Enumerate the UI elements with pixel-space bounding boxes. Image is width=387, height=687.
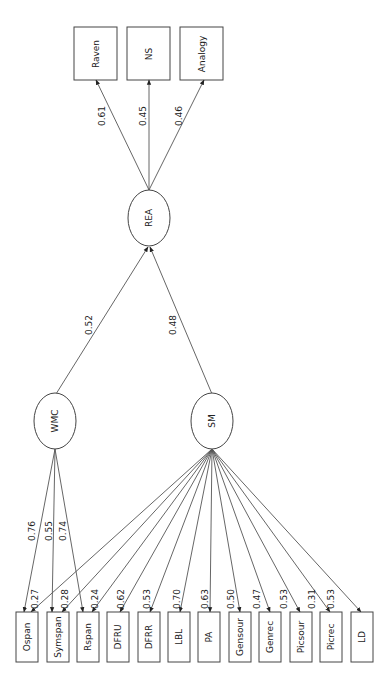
indicator-symspan: Symspan xyxy=(47,612,69,662)
edge-rea-analogy xyxy=(149,80,204,190)
edge-wmc-rea xyxy=(56,247,148,394)
top-indicator-raven: Raven xyxy=(74,27,117,80)
ld-label: LD xyxy=(357,631,367,643)
latent-wmc: WMC xyxy=(34,393,76,449)
weight-wmc-rspan: 0.74 xyxy=(58,521,68,541)
latent-rea: REA xyxy=(128,190,170,246)
weight-analogy: 0.46 xyxy=(174,106,184,126)
weight-sm-genrec: 0.47 xyxy=(252,589,262,609)
indicator-gensour: Gensour xyxy=(229,612,251,662)
weight-sm-lbl: 0.70 xyxy=(172,589,182,609)
edge-sm-genrec xyxy=(212,449,270,612)
indicator-rspan: Rspan xyxy=(77,612,99,662)
latent-sm: SM xyxy=(191,393,233,449)
indicator-genrec: Genrec xyxy=(259,612,281,662)
indicator-ld: LD xyxy=(351,612,373,662)
weight-wmc-symspan: 0.55 xyxy=(44,521,54,541)
indicator-picrec: Picrec xyxy=(320,612,342,662)
edge-sm-pa xyxy=(210,449,212,612)
raven-label: Raven xyxy=(91,40,101,68)
edge-rea-raven xyxy=(96,80,149,190)
edge-sm-dfrr xyxy=(150,449,212,612)
gensour-label: Gensour xyxy=(235,618,245,656)
sm-label: SM xyxy=(207,414,217,427)
dfrr-label: DFRR xyxy=(144,625,154,650)
top-indicator-ns: NS xyxy=(127,27,170,80)
weight-sm-dfrr: 0.53 xyxy=(142,589,152,609)
edge-sm-rea xyxy=(150,247,212,394)
edge-sm-rspan xyxy=(92,449,212,612)
rspan-label: Rspan xyxy=(83,623,93,651)
indicator-dfrr: DFRR xyxy=(138,612,160,662)
weight-sm-picrec: 0.31 xyxy=(307,589,317,609)
pa-label: PA xyxy=(204,631,214,643)
weight-sm-symspan: 0.28 xyxy=(60,589,70,609)
indicator-dfru: DFRU xyxy=(107,612,129,662)
weight-wmc-ospan: 0.76 xyxy=(27,521,37,541)
weight-sm-dfru: 0.62 xyxy=(116,589,126,609)
top-indicator-analogy: Analogy xyxy=(180,27,223,80)
weight-sm-rea: 0.48 xyxy=(168,315,178,335)
weight-ns: 0.45 xyxy=(138,106,148,126)
weight-wmc-rea: 0.52 xyxy=(84,315,94,335)
indicator-picsour: Picsour xyxy=(290,612,312,662)
wmc-label: WMC xyxy=(50,410,60,433)
picsour-label: Picsour xyxy=(296,621,306,654)
indicator-lbl: LBL xyxy=(168,612,190,662)
indicator-ospan: Ospan xyxy=(16,612,38,662)
indicator-pa: PA xyxy=(198,612,220,662)
rea-label: REA xyxy=(144,208,154,227)
edge-sm-symspan xyxy=(62,449,212,612)
picrec-label: Picrec xyxy=(326,624,336,651)
weight-sm-ospan: 0.27 xyxy=(30,589,40,609)
analogy-label: Analogy xyxy=(197,35,207,72)
ospan-label: Ospan xyxy=(22,623,32,652)
weight-sm-gensour: 0.50 xyxy=(226,589,236,609)
weight-sm-pa: 0.63 xyxy=(200,589,210,609)
edge-sm-dfru xyxy=(120,449,212,612)
dfru-label: DFRU xyxy=(113,625,123,650)
weight-sm-picsour: 0.53 xyxy=(279,589,289,609)
sem-diagram: Raven NS Analogy 0.61 0.45 0.46 REA 0.52… xyxy=(0,0,387,687)
edge-sm-picrec xyxy=(212,449,330,612)
ns-label: NS xyxy=(144,47,154,60)
weight-sm-rspan: 0.24 xyxy=(90,589,100,609)
genrec-label: Genrec xyxy=(265,621,275,653)
weight-sm-ld: 0.53 xyxy=(326,589,336,609)
lbl-label: LBL xyxy=(174,629,184,645)
symspan-label: Symspan xyxy=(53,616,63,657)
edge-sm-gensour xyxy=(212,449,240,612)
weight-raven: 0.61 xyxy=(97,106,107,126)
